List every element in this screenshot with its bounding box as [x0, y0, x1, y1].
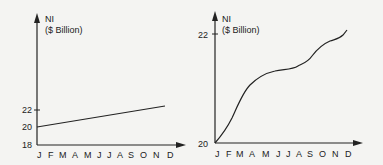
x-tick-label: J	[107, 150, 112, 160]
x-tick-label: M	[262, 149, 270, 159]
x-tick-label: J	[37, 150, 42, 160]
x-axis-arrow-icon	[353, 140, 363, 146]
x-tick-label: S	[307, 149, 313, 159]
x-tick-label: F	[48, 150, 54, 160]
x-tick-label: A	[296, 149, 302, 159]
x-tick-label: J	[215, 149, 220, 159]
y-tick-label: 22	[22, 105, 32, 115]
x-tick-label: F	[226, 149, 232, 159]
y-axis-label-line2: ($ Billion)	[222, 25, 260, 35]
x-axis-arrow-icon	[176, 142, 186, 148]
x-tick-label: A	[249, 149, 255, 159]
data-line	[37, 106, 165, 127]
y-tick-label: 20	[198, 139, 208, 149]
x-tick-label: O	[319, 149, 326, 159]
right-chart: NI ($ Billion) 22 20 J F M A M J J A S O…	[198, 11, 363, 159]
x-tick-label: A	[117, 150, 123, 160]
y-tick-label: 20	[22, 122, 32, 132]
chart-canvas: NI ($ Billion) 22 20 18 J F M A M J J A …	[0, 0, 383, 165]
x-tick-label: D	[167, 150, 174, 160]
x-tick-label: J	[276, 149, 281, 159]
x-tick-label: J	[97, 150, 102, 160]
x-tick-labels: J F M A M J J A S O N D	[215, 149, 352, 159]
y-axis-arrow-icon	[212, 11, 218, 21]
y-tick-label: 22	[198, 30, 208, 40]
x-tick-label: M	[59, 150, 67, 160]
x-tick-label: N	[153, 150, 160, 160]
x-tick-label: J	[286, 149, 291, 159]
left-chart: NI ($ Billion) 22 20 18 J F M A M J J A …	[22, 13, 186, 160]
y-axis-label-line1: NI	[222, 14, 231, 24]
x-tick-label: M	[236, 149, 244, 159]
x-tick-label: N	[332, 149, 339, 159]
y-axis-arrow-icon	[34, 13, 40, 23]
data-curve	[215, 30, 347, 143]
x-tick-labels: J F M A M J J A S O N D	[37, 150, 174, 160]
x-tick-label: M	[84, 150, 92, 160]
x-tick-label: A	[72, 150, 78, 160]
y-axis-label-line1: NI	[45, 14, 54, 24]
y-axis-label-line2: ($ Billion)	[45, 25, 83, 35]
x-tick-label: D	[345, 149, 352, 159]
x-tick-label: S	[128, 150, 134, 160]
x-tick-label: O	[140, 150, 147, 160]
y-tick-label: 18	[22, 140, 32, 150]
